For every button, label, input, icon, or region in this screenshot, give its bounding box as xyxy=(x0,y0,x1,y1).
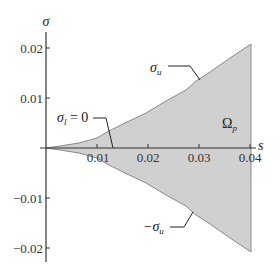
x-axis-label: s xyxy=(258,138,264,153)
y-tick-label: 0.02 xyxy=(20,41,43,56)
y-tick-label: −0.02 xyxy=(13,241,43,256)
y-tick-label: 0.01 xyxy=(20,91,43,106)
x-tick-label: 0.01 xyxy=(87,150,110,165)
chart: 0.02 0.01 −0.01 −0.02 0.01 0.02 0.03 0.0… xyxy=(0,0,280,277)
sigma-u-leader xyxy=(168,66,200,80)
y-tick-label: −0.01 xyxy=(13,191,43,206)
y-axis-label: σ xyxy=(43,14,51,29)
sigma-u-label: σu xyxy=(150,60,162,77)
sigma-l-label: σl = 0 xyxy=(57,110,88,127)
x-tick-label: 0.02 xyxy=(137,150,160,165)
x-tick-label: 0.03 xyxy=(188,150,211,165)
neg-sigma-u-leader xyxy=(170,212,193,227)
neg-sigma-u-label: −σu xyxy=(143,219,164,236)
